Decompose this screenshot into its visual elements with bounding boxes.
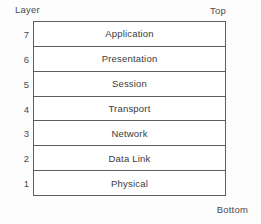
layer-label: Presentation — [102, 53, 158, 64]
top-label: Top — [210, 5, 226, 17]
layer-number: 2 — [24, 153, 29, 164]
layer-label: Application — [105, 28, 154, 39]
layer-label: Network — [111, 128, 147, 139]
layer-number: 3 — [24, 128, 29, 139]
layer-stack: 7 Application 6 Presentation 5 Session 4… — [33, 21, 226, 196]
layer-number: 4 — [24, 103, 29, 114]
layer-label: Physical — [111, 178, 148, 189]
layer-number: 6 — [24, 53, 29, 64]
layer-row: 2 Data Link — [34, 146, 225, 171]
layer-column-header: Layer — [15, 4, 40, 16]
layer-row: 3 Network — [34, 121, 225, 146]
layer-number: 7 — [24, 28, 29, 39]
layer-label: Transport — [108, 103, 150, 114]
layer-label: Data Link — [109, 153, 151, 164]
layer-label: Session — [112, 78, 147, 89]
layer-number: 1 — [24, 178, 29, 189]
layer-row: 5 Session — [34, 72, 225, 97]
layer-row: 7 Application — [34, 22, 225, 47]
layer-row: 1 Physical — [34, 171, 225, 195]
layer-row: 6 Presentation — [34, 47, 225, 72]
layer-row: 4 Transport — [34, 97, 225, 122]
bottom-label: Bottom — [217, 204, 248, 216]
layer-number: 5 — [24, 78, 29, 89]
osi-layer-diagram: Layer Top 7 Application 6 Presentation 5… — [0, 0, 261, 224]
